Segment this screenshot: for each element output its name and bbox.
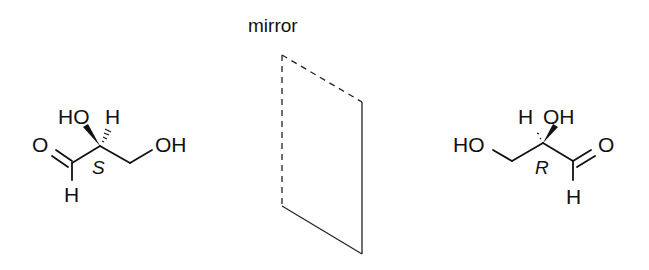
left-stereo-label: S [92, 157, 105, 178]
right-stereo-label: R [535, 157, 549, 178]
right-atom-oh: OH [543, 105, 575, 128]
right-atom-h-top: H [518, 105, 533, 128]
left-atom-oh: OH [155, 133, 187, 156]
right-atom-o: O [598, 133, 614, 156]
left-atom-o: O [32, 133, 48, 156]
mirror-dashed-top-edge [282, 55, 362, 102]
mirror-plane [282, 55, 362, 254]
left-atom-h-aldehyde: H [64, 183, 79, 206]
left-molecule: O H HO H OH S [32, 105, 187, 206]
right-molecule: HO H OH O H R [453, 105, 614, 208]
left-c3-o-bond [130, 150, 152, 163]
enantiomer-diagram: mirror O H HO H OH S [0, 0, 649, 270]
mirror-label: mirror [248, 15, 298, 36]
right-o-c3-bond [493, 150, 512, 161]
left-atom-ho: HO [58, 105, 90, 128]
left-atom-h-top: H [105, 105, 120, 128]
right-hashed-bond [537, 133, 541, 139]
right-atom-ho: HO [453, 133, 485, 156]
mirror-bottom-edge [282, 206, 362, 254]
right-atom-h-aldehyde: H [566, 185, 581, 208]
left-hashed-bond [102, 129, 111, 142]
